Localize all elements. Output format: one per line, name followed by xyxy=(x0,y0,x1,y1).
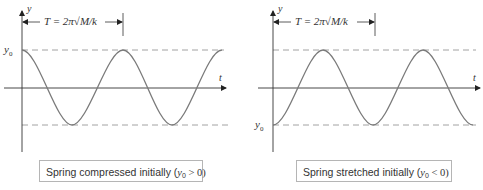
y-axis-label: y xyxy=(278,3,282,14)
period-label: T = 2π√M/k xyxy=(44,15,97,27)
panel-compressed xyxy=(4,11,228,152)
caption-text: Spring compressed initially ( xyxy=(46,166,177,178)
t-axis-label: t xyxy=(473,72,476,83)
displacement-curve xyxy=(273,50,473,125)
caption-text: Spring stretched initially ( xyxy=(303,166,420,178)
caption-stretched: Spring stretched initially (y0 < 0) xyxy=(296,160,452,182)
panel-stretched xyxy=(258,11,480,152)
y0-label: y0 xyxy=(4,43,12,58)
period-label: T = 2π√M/k xyxy=(295,15,348,27)
y-axis-label: y xyxy=(27,3,31,14)
caption-relation: > 0) xyxy=(186,167,206,178)
t-axis-label: t xyxy=(219,72,222,83)
y0-label: y0 xyxy=(255,118,263,133)
caption-relation: < 0) xyxy=(429,167,449,178)
displacement-curve xyxy=(22,50,222,125)
caption-compressed: Spring compressed initially (y0 > 0) xyxy=(39,160,203,182)
